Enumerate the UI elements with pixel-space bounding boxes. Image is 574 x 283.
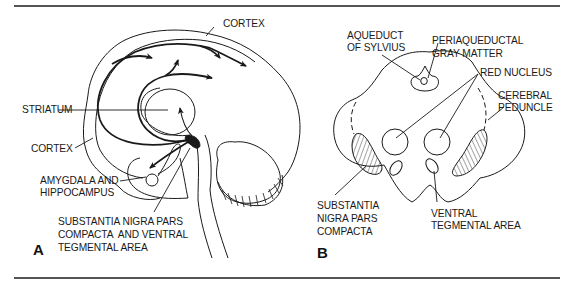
label-periaqueductal-line2: GRAY MATTER	[432, 48, 503, 61]
label-aqueduct-line2: OF SYLVIUS	[347, 42, 405, 55]
label-cortex-top: CORTEX	[223, 18, 265, 31]
label-aqueduct-line1: AQUEDUCT	[347, 30, 403, 43]
label-striatum: STRIATUM	[22, 104, 73, 117]
label-cerebral-line1: CEREBRAL	[498, 90, 552, 103]
label-red-nucleus: RED NUCLEUS	[480, 67, 552, 80]
panel-letter-b: B	[317, 244, 328, 261]
label-snpc-line2: NIGRA PARS	[317, 213, 378, 226]
label-substantia-a-line1: SUBSTANTIA NIGRA PARS	[58, 216, 183, 229]
panel-letter-a: A	[33, 241, 44, 258]
label-substantia-a-line3: TEGMENTAL AREA	[58, 242, 148, 255]
aqueduct-shape	[421, 78, 428, 85]
periaqueductal-gray	[411, 66, 438, 91]
label-amygdala-line1: AMYGDALA AND	[40, 175, 119, 188]
substantia-nigra-right	[452, 130, 487, 176]
label-periaqueductal-line1: PERIAQUEDUCTAL	[432, 35, 523, 48]
label-snpc-line3: COMPACTA	[317, 226, 372, 239]
label-snpc-line1: SUBSTANTIA	[317, 200, 379, 213]
label-vta-line1: VENTRAL	[431, 208, 477, 221]
label-substantia-a-line2: COMPACTA AND VENTRAL	[58, 229, 188, 242]
label-cortex-left: CORTEX	[31, 143, 73, 156]
vta-right	[423, 157, 440, 176]
cerebellum-folia	[218, 175, 283, 206]
red-nucleus-right	[424, 129, 450, 155]
red-nucleus-left	[382, 129, 408, 155]
label-amygdala-line2: HIPPOCAMPUS	[40, 187, 114, 200]
substantia-nigra-left	[352, 133, 382, 174]
label-cerebral-line2: PEDUNCLE	[498, 102, 553, 115]
brainstem	[196, 140, 212, 258]
striatum-shape	[145, 89, 195, 135]
amygdala-shape	[146, 174, 158, 186]
label-vta-line2: TEGMENTAL AREA	[431, 220, 521, 233]
